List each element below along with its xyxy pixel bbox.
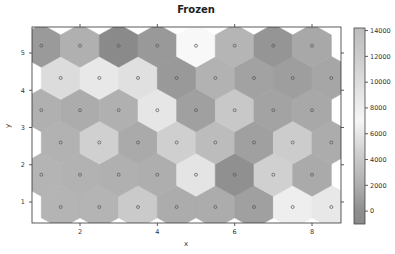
colorbar-bar <box>354 28 365 224</box>
y-tick-label: 3 <box>21 124 25 132</box>
x-tick-label: 2 <box>78 228 82 236</box>
x-tick-label: 6 <box>233 228 237 236</box>
hex-cells <box>22 24 351 228</box>
x-axis-label: x <box>184 240 188 248</box>
y-axis-label: y <box>4 124 12 128</box>
som-hexmap-chart: Frozen 2468 12345 x y 020004000600080001… <box>0 0 395 254</box>
colorbar-tick-label: 6000 <box>370 130 387 138</box>
colorbar-ticks: 02000400060008000100001200014000 <box>365 27 391 216</box>
x-tick-label: 4 <box>155 228 159 236</box>
x-tick-label: 8 <box>310 228 314 236</box>
colorbar-tick-label: 14000 <box>370 27 391 35</box>
colorbar-tick-label: 0 <box>370 207 374 215</box>
colorbar-tick-label: 12000 <box>370 53 391 61</box>
colorbar-tick-label: 2000 <box>370 182 387 190</box>
y-tick-label: 2 <box>21 161 25 169</box>
colorbar-tick-label: 8000 <box>370 104 387 112</box>
colorbar-tick-label: 4000 <box>370 156 387 164</box>
chart-title: Frozen <box>177 4 215 15</box>
colorbar-tick-label: 10000 <box>370 78 391 86</box>
y-tick-label: 4 <box>21 87 25 95</box>
colorbar: 02000400060008000100001200014000 <box>354 27 391 224</box>
y-tick-label: 5 <box>21 49 25 57</box>
y-tick-label: 1 <box>21 198 25 206</box>
